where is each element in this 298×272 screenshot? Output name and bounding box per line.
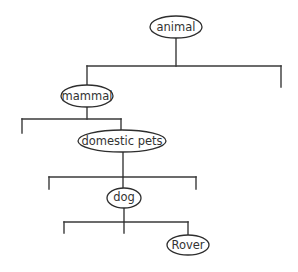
node-domestic-pets: domestic pets (78, 130, 166, 152)
node-label-rover: Rover (171, 238, 204, 252)
node-label-mammal: mammal (62, 89, 113, 103)
taxonomy-tree-diagram: animal mammal domestic pets dog Rover (0, 0, 298, 272)
edges-dog (64, 208, 188, 235)
node-dog: dog (107, 188, 141, 208)
node-animal: animal (150, 16, 202, 38)
edges-mammal (22, 107, 121, 133)
edges-domestic-pets (49, 152, 196, 189)
node-label-animal: animal (157, 20, 196, 34)
node-label-dog: dog (113, 190, 135, 204)
edges-animal (87, 38, 281, 87)
node-rover: Rover (167, 235, 209, 255)
node-label-domestic-pets: domestic pets (81, 134, 162, 148)
node-mammal: mammal (61, 85, 113, 107)
